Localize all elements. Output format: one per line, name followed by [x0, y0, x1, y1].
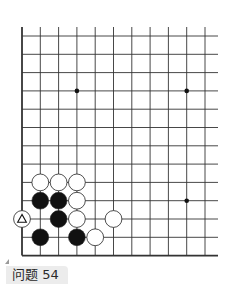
- star-point: [184, 198, 189, 203]
- black-stone: [50, 211, 67, 228]
- white-stone: [14, 211, 31, 228]
- star-point: [184, 89, 189, 94]
- go-board-diagram: [0, 0, 232, 262]
- white-stone: [69, 174, 86, 191]
- stones-layer: [14, 174, 122, 246]
- black-stone: [69, 229, 86, 246]
- white-stone: [32, 174, 49, 191]
- caption-corner-marker: [5, 259, 9, 264]
- white-stone: [87, 229, 104, 246]
- white-stone: [50, 174, 67, 191]
- black-stone: [32, 229, 49, 246]
- star-point: [75, 89, 80, 94]
- black-stone: [50, 192, 67, 209]
- problem-caption: 问题 54: [6, 266, 68, 284]
- white-stone: [105, 211, 122, 228]
- white-stone: [69, 192, 86, 209]
- black-stone: [32, 192, 49, 209]
- white-stone: [69, 211, 86, 228]
